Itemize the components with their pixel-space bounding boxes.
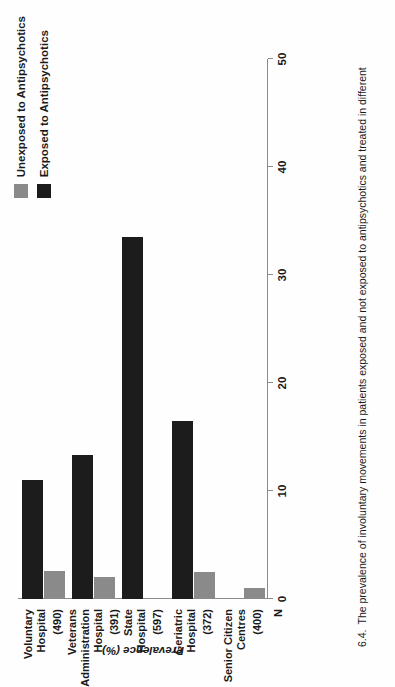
category-label: VeteransAdministrationHospital(391)	[66, 609, 121, 687]
axis-tick	[268, 598, 273, 599]
category-label-line: Veterans	[66, 609, 79, 687]
category-n-value: (372)	[201, 609, 214, 654]
category-label-line: Centres	[235, 609, 248, 682]
category-label: StateHospital(597)	[122, 609, 164, 652]
category-label-line: Senior Citizen	[222, 609, 235, 682]
category-n-value: (400)	[251, 609, 264, 682]
axis-tick-label: 10	[276, 485, 288, 498]
figure-caption-text: The prevalence of involuntary movements …	[356, 67, 368, 624]
category-label-line: Hospital	[35, 609, 48, 659]
n-axis-label: N	[272, 609, 284, 617]
category-label-line: Voluntary	[22, 609, 35, 659]
category-label: GeriatricHospital(372)	[172, 609, 214, 654]
axis-tick-label: 50	[276, 53, 288, 66]
bar-group: Senior CitizenCentres(400)	[18, 59, 268, 599]
figure-caption-number: 6.4.	[356, 629, 368, 647]
plot-area: Prevalence (%) 01020304050 VoluntaryHosp…	[18, 59, 268, 599]
category-n-value: (490)	[51, 609, 64, 659]
axis-tick	[268, 58, 273, 59]
bar	[244, 588, 265, 599]
category-label-line: Geriatric	[172, 609, 185, 654]
category-n-value: (391)	[107, 609, 120, 687]
category-label-line: Administration	[79, 609, 92, 687]
axis-tick-label: 20	[276, 377, 288, 390]
category-label: VoluntaryHospital(490)	[22, 609, 64, 659]
axis-tick-label: 40	[276, 161, 288, 174]
axis-tick	[268, 274, 273, 275]
figure-caption: 6.4.The prevalence of involuntary moveme…	[356, 7, 370, 647]
category-label-line: Hospital	[135, 609, 148, 652]
axis-tick	[268, 490, 273, 491]
category-label-line: Hospital	[92, 609, 105, 687]
axis-tick	[268, 382, 273, 383]
axis-tick-label: 0	[276, 596, 288, 602]
category-label-line: Hospital	[185, 609, 198, 654]
category-n-value: (597)	[151, 609, 164, 652]
axis-tick-label: 30	[276, 269, 288, 282]
axis-tick	[268, 166, 273, 167]
category-label: Senior CitizenCentres(400)	[222, 609, 264, 682]
category-label-line: State	[122, 609, 135, 652]
